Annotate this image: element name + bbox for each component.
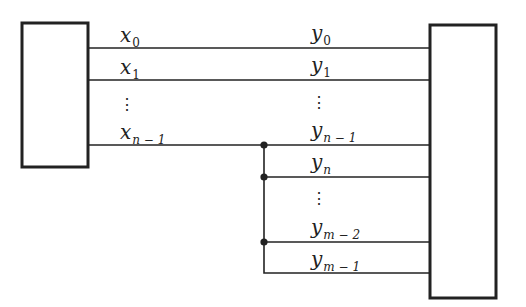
left-block	[22, 23, 88, 167]
label-y0: y0	[310, 21, 331, 48]
wiring-diagram: x0 x1 ⋮ xn − 1 y0 y1 ⋮ yn − 1 yn ⋮ ym − …	[0, 0, 526, 307]
label-ym-1: ym − 1	[310, 247, 360, 274]
label-xn-1: xn − 1	[120, 120, 165, 147]
label-yn-1: yn − 1	[310, 118, 356, 145]
right-block	[430, 25, 496, 298]
label-yn: yn	[310, 150, 331, 177]
ellipsis-x: ⋮	[119, 95, 135, 114]
fanout-bus	[264, 145, 430, 273]
label-y1: y1	[310, 53, 331, 80]
label-x0: x0	[120, 23, 140, 50]
ellipsis-y2: ⋮	[311, 189, 327, 208]
label-x1: x1	[120, 55, 140, 82]
junction-dot	[260, 173, 267, 180]
ellipsis-y: ⋮	[311, 93, 327, 112]
junction-dot	[260, 141, 267, 148]
label-ym-2: ym − 2	[310, 215, 360, 242]
junction-dot	[260, 238, 267, 245]
